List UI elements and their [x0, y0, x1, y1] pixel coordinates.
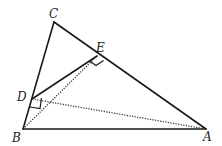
label-d: D: [16, 90, 27, 104]
label-b: B: [11, 131, 21, 145]
label-c: C: [49, 7, 58, 21]
segment-da-dotted: [32, 99, 206, 129]
label-a: A: [202, 130, 212, 144]
segment-cb: [23, 22, 54, 129]
triangle-diagram: C E D B A: [0, 0, 222, 146]
label-e: E: [95, 41, 105, 55]
